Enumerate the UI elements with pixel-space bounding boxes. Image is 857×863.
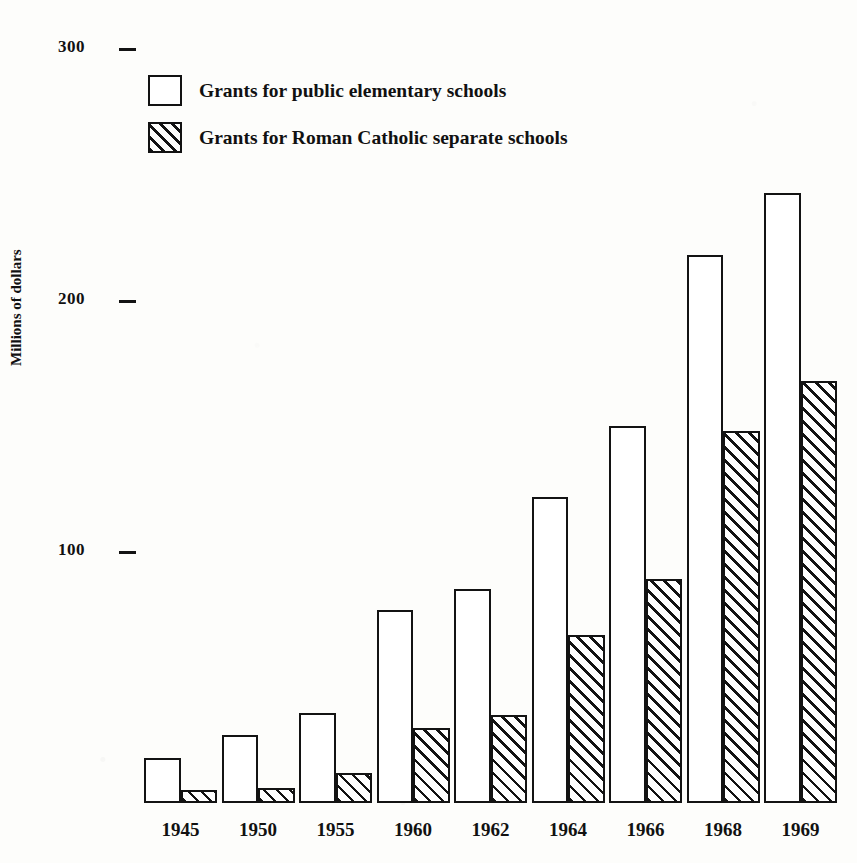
legend-label-roman-catholic-separate: Grants for Roman Catholic separate schoo… bbox=[199, 127, 568, 149]
legend-item-roman-catholic-separate: Grants for Roman Catholic separate schoo… bbox=[148, 122, 568, 153]
bar-1962-series1 bbox=[454, 589, 491, 803]
bar-1955-series2 bbox=[336, 773, 373, 803]
bar-1950-series1 bbox=[222, 735, 259, 803]
bar-1960-series1 bbox=[377, 610, 414, 803]
bar-1960-series2 bbox=[413, 728, 450, 803]
legend-swatch-white-square bbox=[148, 75, 182, 106]
y-axis-tick-label-200: 200 bbox=[58, 289, 85, 309]
y-axis-tick-dash-100 bbox=[119, 551, 136, 554]
y-axis-tick-dash-200 bbox=[119, 300, 136, 303]
bar-1966-series2 bbox=[646, 579, 683, 803]
bar-1962-series2 bbox=[491, 715, 528, 803]
bar-1964-series2 bbox=[568, 635, 605, 803]
legend-swatch-hatched-square bbox=[148, 122, 182, 153]
chart-legend: Grants for public elementary schools Gra… bbox=[148, 75, 568, 169]
bar-1945-series1 bbox=[144, 758, 181, 803]
bar-1966-series1 bbox=[609, 426, 646, 803]
legend-item-public-elementary: Grants for public elementary schools bbox=[148, 75, 568, 106]
x-axis-tick-label-1969: 1969 bbox=[755, 819, 846, 841]
bar-1945-series2 bbox=[181, 790, 218, 803]
bar-1964-series1 bbox=[532, 497, 569, 803]
bar-1968-series1 bbox=[687, 255, 724, 803]
bar-1968-series2 bbox=[723, 431, 760, 803]
bar-chart: Millions of dollars 100200300 Grants for… bbox=[0, 0, 857, 863]
y-axis-tick-label-100: 100 bbox=[58, 540, 85, 560]
y-axis-tick-label-300: 300 bbox=[58, 37, 85, 57]
bar-1969-series2 bbox=[801, 381, 838, 803]
legend-label-public-elementary: Grants for public elementary schools bbox=[199, 80, 506, 102]
bar-1955-series1 bbox=[299, 713, 336, 803]
y-axis-tick-dash-300 bbox=[119, 48, 136, 51]
y-axis-title: Millions of dollars bbox=[8, 249, 25, 366]
bar-1950-series2 bbox=[258, 788, 295, 803]
bar-1969-series1 bbox=[764, 193, 801, 803]
